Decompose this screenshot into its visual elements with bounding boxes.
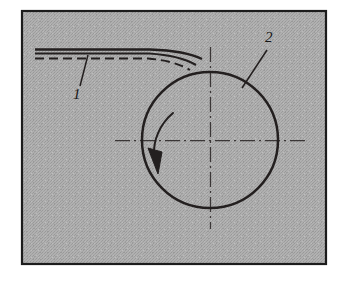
technical-diagram: 1 2 [0, 0, 348, 283]
part-1-label: 1 [73, 86, 81, 102]
part-2-label: 2 [265, 29, 273, 45]
figure-root: 1 2 [0, 0, 348, 283]
